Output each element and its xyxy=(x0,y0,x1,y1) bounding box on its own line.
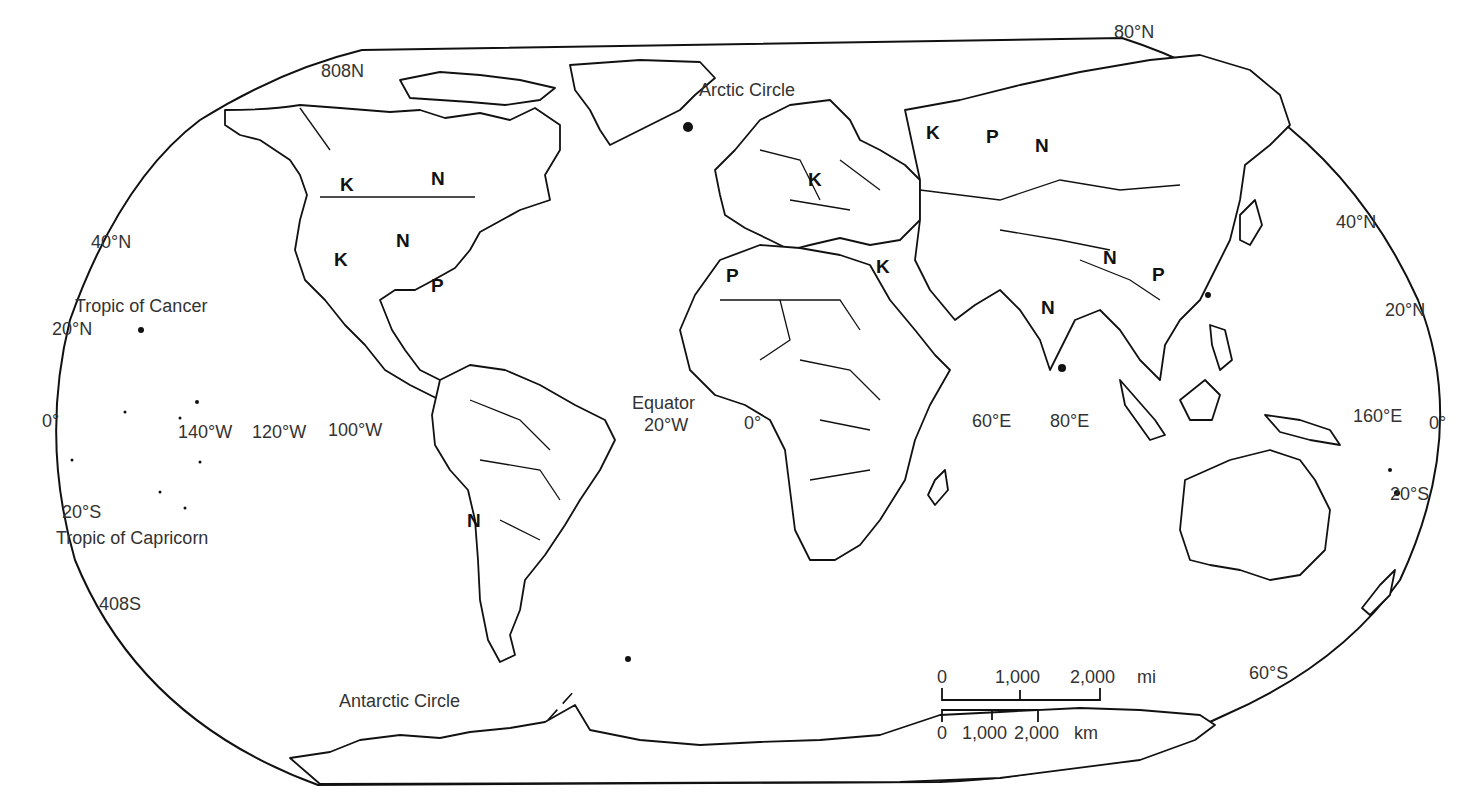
scale-km-unit: km xyxy=(1074,724,1098,742)
lat-label-20n-right: 20°N xyxy=(1385,301,1425,319)
sri-lanka-island xyxy=(1058,364,1066,372)
pacific-islet xyxy=(179,417,182,420)
marker-n: N xyxy=(396,231,410,250)
lat-label-80n-right: 80°N xyxy=(1114,23,1154,41)
lon-label-120w: 120°W xyxy=(252,423,306,441)
lat-label-20s-right: 20°S xyxy=(1390,485,1429,503)
philippines-islands xyxy=(1210,325,1232,370)
pacific-islet xyxy=(159,491,162,494)
pacific-islet xyxy=(199,461,202,464)
taiwan-island xyxy=(1205,292,1211,298)
africa-landmass xyxy=(680,245,950,560)
marker-n: N xyxy=(1035,136,1049,155)
scale-mi-unit: mi xyxy=(1137,668,1156,686)
scale-km-tick-0: 0 xyxy=(937,724,947,742)
pacific-islet xyxy=(195,400,199,404)
lat-label-20s-left: 20°S xyxy=(62,503,101,521)
marker-k: K xyxy=(876,257,890,276)
lon-label-20w: 20°W xyxy=(644,416,688,434)
lat-label-equator-left: 0° xyxy=(42,412,59,430)
pacific-islet xyxy=(184,507,187,510)
pacific-islet xyxy=(1388,468,1392,472)
madagascar-island xyxy=(928,470,948,505)
lon-label-140w: 140°W xyxy=(178,423,232,441)
tropic-of-cancer-label: Tropic of Cancer xyxy=(75,297,207,315)
scale-mi-tick-0: 0 xyxy=(937,668,947,686)
arctic-archipelago xyxy=(400,72,555,105)
lon-label-0: 0° xyxy=(744,414,761,432)
asia-landmass xyxy=(905,55,1290,380)
pacific-islet xyxy=(124,411,127,414)
north-america-landmass xyxy=(225,105,560,400)
marker-p: P xyxy=(986,127,999,146)
iceland-island xyxy=(683,122,693,132)
map-outline-svg xyxy=(0,0,1478,804)
new-guinea-island xyxy=(1265,415,1340,445)
lat-label-40n-right: 40°N xyxy=(1336,213,1376,231)
marker-p: P xyxy=(1152,265,1165,284)
lat-label-40n-left: 40°N xyxy=(91,233,131,251)
marker-n: N xyxy=(467,511,481,530)
marker-n: N xyxy=(1041,298,1055,317)
japan-islands xyxy=(1240,200,1262,245)
scale-km-tick-2000: 2,000 xyxy=(1014,724,1059,742)
antarctic-circle-label: Antarctic Circle xyxy=(339,692,460,710)
lat-label-40s-left: 408S xyxy=(99,595,141,613)
marker-n: N xyxy=(431,169,445,188)
greenland-landmass xyxy=(570,60,715,145)
marker-k: K xyxy=(808,170,822,189)
tropic-of-capricorn-label: Tropic of Capricorn xyxy=(56,529,208,547)
borneo-island xyxy=(1180,380,1220,420)
lon-label-160e: 160°E xyxy=(1353,407,1402,425)
marker-p: P xyxy=(431,276,444,295)
marker-k: K xyxy=(334,250,348,269)
antarctica-landmass xyxy=(290,705,1215,784)
marker-n: N xyxy=(1103,248,1117,267)
lon-label-80e: 80°E xyxy=(1050,412,1089,430)
lat-label-equator-right: 0° xyxy=(1429,414,1446,432)
scale-bar-miles xyxy=(942,688,1100,700)
world-map: 808N 80°N 40°N 40°N 20°N 20°N 0° 0° 20°S… xyxy=(0,0,1478,804)
pacific-islet xyxy=(71,459,74,462)
marker-k: K xyxy=(926,123,940,142)
arctic-circle-label: Arctic Circle xyxy=(699,81,795,99)
falklands-island xyxy=(625,656,631,662)
scale-mi-tick-1000: 1,000 xyxy=(995,668,1040,686)
sumatra-island xyxy=(1120,380,1165,440)
equator-label: Equator xyxy=(632,394,695,412)
lon-label-60e: 60°E xyxy=(972,412,1011,430)
lat-label-80n-left: 808N xyxy=(321,62,364,80)
marker-p: P xyxy=(726,266,739,285)
lon-label-100w: 100°W xyxy=(328,421,382,439)
lat-label-20n-left: 20°N xyxy=(52,320,92,338)
lat-label-60s-right: 60°S xyxy=(1249,664,1288,682)
marker-k: K xyxy=(340,175,354,194)
australia-landmass xyxy=(1180,450,1330,580)
scale-mi-tick-2000: 2,000 xyxy=(1070,668,1115,686)
south-america-landmass xyxy=(432,365,615,662)
hawaii-island xyxy=(138,327,144,333)
scale-km-tick-1000: 1,000 xyxy=(962,724,1007,742)
